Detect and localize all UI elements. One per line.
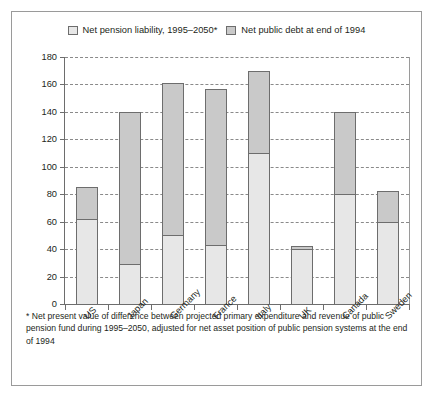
chart-legend: Net pension liability, 1995–2050* Net pu… bbox=[12, 25, 421, 35]
bar-segment-net-public-debt bbox=[163, 84, 183, 236]
stacked-bar[interactable] bbox=[248, 71, 270, 304]
bar-slot bbox=[237, 57, 280, 304]
bar-segment-net-public-debt bbox=[77, 188, 97, 220]
bar-segment-net-public-debt bbox=[335, 113, 355, 195]
stacked-bar[interactable] bbox=[377, 191, 399, 304]
bar-segment-net-public-debt bbox=[249, 72, 269, 154]
stacked-bar[interactable] bbox=[162, 83, 184, 304]
plot-right-rule bbox=[409, 57, 410, 304]
y-axis-tick-label: 180 bbox=[41, 52, 57, 62]
y-axis-tick-label: 20 bbox=[47, 272, 57, 282]
y-axis-tick-label: 60 bbox=[47, 217, 57, 227]
legend-item-net-pension-liability: Net pension liability, 1995–2050* bbox=[68, 25, 218, 35]
y-axis-tick-label: 140 bbox=[41, 107, 57, 117]
legend-label-net-public-debt: Net public debt at end of 1994 bbox=[241, 25, 365, 35]
bar-segment-net-pension-liability bbox=[206, 246, 226, 304]
bar-slot bbox=[323, 57, 366, 304]
bar-segment-net-pension-liability bbox=[249, 154, 269, 304]
y-axis-tick-label: 120 bbox=[41, 134, 57, 144]
bar-segment-net-pension-liability bbox=[163, 236, 183, 304]
bar-segment-net-public-debt bbox=[378, 192, 398, 222]
bar-slot bbox=[65, 57, 108, 304]
stacked-bar[interactable] bbox=[334, 112, 356, 304]
bar-slot bbox=[151, 57, 194, 304]
bar-segment-net-pension-liability bbox=[120, 265, 140, 304]
y-axis-tick-label: 0 bbox=[52, 299, 57, 309]
bar-segment-net-public-debt bbox=[206, 90, 226, 246]
legend-item-net-public-debt: Net public debt at end of 1994 bbox=[226, 25, 365, 35]
stacked-bar[interactable] bbox=[76, 187, 98, 304]
plot-area: 020406080100120140160180 USJapanGermanyF… bbox=[64, 57, 409, 305]
light-grey-swatch-icon bbox=[68, 26, 78, 35]
bar-slot bbox=[108, 57, 151, 304]
bar-segment-net-pension-liability bbox=[292, 250, 312, 304]
bar-slot bbox=[194, 57, 237, 304]
chart-footnote: * Net present value of difference betwee… bbox=[26, 310, 409, 347]
stacked-bar[interactable] bbox=[119, 112, 141, 304]
y-axis-tick-label: 160 bbox=[41, 79, 57, 89]
bar-segment-net-pension-liability bbox=[77, 220, 97, 304]
bar-segment-net-pension-liability bbox=[378, 223, 398, 304]
x-axis-tick bbox=[409, 304, 410, 310]
bar-segment-net-public-debt bbox=[120, 113, 140, 265]
stacked-bar[interactable] bbox=[205, 89, 227, 304]
bar-segment-net-pension-liability bbox=[335, 195, 355, 304]
legend-label-net-pension-liability: Net pension liability, 1995–2050* bbox=[83, 25, 218, 35]
y-axis-tick-label: 40 bbox=[47, 244, 57, 254]
bar-group bbox=[65, 57, 409, 304]
bar-slot bbox=[280, 57, 323, 304]
chart-figure: Net pension liability, 1995–2050* Net pu… bbox=[11, 11, 422, 386]
y-axis-tick-label: 100 bbox=[41, 162, 57, 172]
bar-slot bbox=[366, 57, 409, 304]
stacked-bar[interactable] bbox=[291, 246, 313, 304]
y-axis-tick-label: 80 bbox=[47, 189, 57, 199]
dark-grey-swatch-icon bbox=[226, 26, 236, 35]
